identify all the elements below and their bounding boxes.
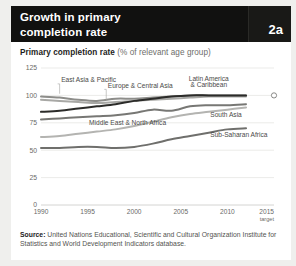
x-axis-tick-label: 2010 — [220, 208, 235, 215]
y-axis-tick-label: 100 — [26, 92, 38, 99]
x-axis-tick-label: 1990 — [34, 208, 49, 215]
chart-plot-area: 1251007550250199019952000200520102015tar… — [20, 62, 282, 227]
series-annotation-label: Sub-Saharan Africa — [210, 131, 268, 138]
series-annotation-label: & Caribbean — [190, 81, 227, 88]
chart-header: Growth in primary completion rate 2a — [11, 6, 291, 42]
chart-subtitle-normal: (% of relevant age group) — [115, 48, 211, 57]
y-axis-tick-label: 25 — [29, 174, 37, 181]
y-axis-tick-label: 125 — [26, 64, 38, 71]
series-annotation-label: Middle East & North Africa — [89, 119, 166, 126]
x-axis-tick-label: 2005 — [173, 208, 188, 215]
title-line-1: Growth in primary — [20, 10, 210, 25]
x-axis-tick-label: 1995 — [80, 208, 95, 215]
x-axis-tick-label: 2015 — [259, 208, 274, 215]
title-line-2: completion rate — [20, 25, 210, 40]
line-chart-svg: 1251007550250199019952000200520102015tar… — [20, 62, 282, 227]
y-axis-tick-label: 75 — [29, 119, 37, 126]
x-axis-tick-label: 2000 — [127, 208, 142, 215]
series-annotation-label: Europe & Central Asia — [108, 82, 173, 90]
y-axis-tick-label: 50 — [29, 147, 37, 154]
figure-badge-label: 2a — [269, 22, 283, 37]
chart-canvas: 1251007550250199019952000200520102015tar… — [20, 62, 282, 227]
figure-badge: 2a — [248, 6, 291, 42]
chart-subtitle-bold: Primary completion rate — [20, 48, 115, 57]
chart-source: Source: United Nations Educational, Scie… — [20, 230, 283, 248]
page-title: Growth in primary completion rate — [20, 10, 210, 39]
chart-page: Growth in primary completion rate 2a Pri… — [0, 0, 296, 266]
x-axis-tick-sublabel: target — [260, 216, 275, 222]
annotation-leader-line — [58, 84, 60, 94]
target-marker-icon — [271, 93, 276, 98]
chart-subtitle: Primary completion rate (% of relevant a… — [20, 48, 211, 57]
annotation-leader-line — [104, 89, 106, 100]
chart-card: Growth in primary completion rate 2a Pri… — [11, 6, 291, 260]
series-annotation-label: South Asia — [210, 111, 242, 118]
source-label: Source: — [20, 231, 45, 238]
source-text: United Nations Educational, Scientific a… — [20, 231, 276, 247]
